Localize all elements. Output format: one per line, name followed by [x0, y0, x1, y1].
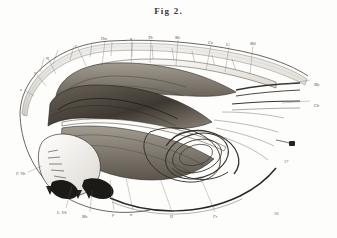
blot-tail	[276, 140, 289, 143]
reference-label: I	[75, 45, 77, 49]
spinal-cord-trunk	[232, 83, 300, 110]
anatomical-illustration	[0, 0, 337, 238]
reference-label: Ch	[314, 104, 319, 108]
reference-label: F. Vb	[16, 172, 25, 176]
reference-label: 17	[284, 160, 288, 164]
reference-label: V	[34, 72, 37, 76]
reference-label: 10	[274, 212, 278, 216]
reference-label: Md	[250, 42, 256, 46]
reference-label: Li	[226, 43, 230, 47]
reference-label: L. Vb	[57, 211, 67, 215]
reference-label: p	[112, 213, 114, 217]
nerve-fibres	[214, 112, 284, 160]
ink-blot-right	[289, 141, 295, 146]
reference-label: n	[130, 213, 132, 217]
reference-label: Fr	[213, 215, 217, 219]
reference-label: My	[314, 83, 320, 87]
engraving-plate: Fig 2.	[0, 0, 337, 238]
reference-label: H	[170, 215, 173, 219]
reference-label: Hm	[101, 37, 107, 41]
reference-label: Mc	[175, 36, 181, 40]
reference-label: N	[46, 57, 49, 61]
reference-label: e	[20, 88, 22, 92]
reference-label: a	[130, 37, 132, 41]
reference-label: Mx	[82, 215, 88, 219]
reference-label: Ce	[208, 41, 213, 45]
reference-label: Th	[148, 36, 153, 40]
